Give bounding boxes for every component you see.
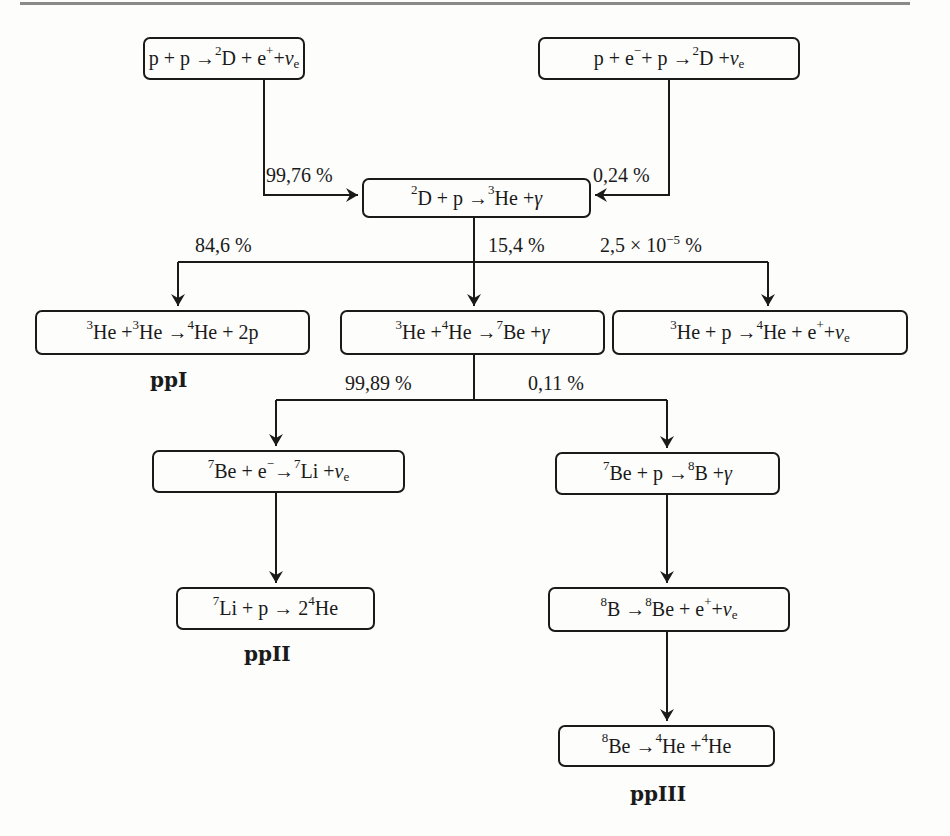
superscript: 8 [645, 594, 652, 610]
chain-label-ppIII: ppIII [630, 782, 686, 806]
neutrino-symbol: ν [730, 47, 739, 70]
reaction-be7-p: 7Be + p → 8B + γ [555, 452, 780, 495]
reaction-be8-decay: 8Be → 4He + 4He [558, 725, 775, 767]
superscript: 4 [308, 593, 315, 609]
text: + [273, 47, 284, 70]
reaction-be7-e: 7Be + e− → 7Li + νe [152, 450, 405, 493]
text: He + [93, 321, 133, 344]
branch-label-pp: 99,76 % [266, 164, 333, 187]
text: He + [402, 321, 442, 344]
superscript: 7 [213, 593, 220, 609]
text: He + 2p [194, 321, 259, 344]
text: He → [448, 321, 496, 344]
text: He + e [763, 321, 816, 344]
text: D + e [221, 47, 266, 70]
text: He + [662, 735, 702, 758]
text: D + p → [417, 187, 488, 210]
branch-label-pep: 0,24 % [593, 164, 650, 187]
superscript: 8 [600, 594, 607, 610]
text: He [708, 735, 731, 758]
text: Be + p → [609, 462, 688, 485]
reaction-hep: 3He + p → 4He + e+ + νe [612, 310, 908, 355]
superscript: 3 [396, 317, 403, 333]
reaction-b8-decay: 8B → 8Be + e+ + νe [548, 587, 790, 632]
superscript: 3 [133, 317, 140, 333]
gamma-symbol: γ [724, 462, 732, 485]
text: p + p → [149, 47, 215, 70]
reaction-he3-he3: 3He + 3He → 4He + 2p [35, 310, 310, 355]
branch-label-ppIII: 0,11 % [528, 372, 584, 395]
superscript: + [704, 594, 711, 610]
text: He → [139, 321, 187, 344]
reaction-li7-p: 7Li + p → 24He [176, 587, 375, 630]
text: + p → [641, 47, 692, 70]
superscript: 3 [488, 182, 495, 198]
text: He + [495, 187, 535, 210]
connector-arrows [0, 0, 950, 836]
superscript: + [266, 43, 273, 59]
text: Be → [608, 735, 655, 758]
text: B + [694, 462, 724, 485]
superscript: 3 [670, 317, 677, 333]
exponent: −5 [666, 232, 680, 247]
text: p + e [594, 47, 634, 70]
branch-label-he3he4: 15,4 % [488, 234, 545, 257]
chain-label-ppII: ppII [244, 642, 291, 666]
text: Be + [503, 321, 542, 344]
gamma-symbol: γ [534, 187, 542, 210]
subscript: e [294, 56, 300, 72]
superscript: 4 [702, 730, 709, 746]
subscript: e [739, 56, 745, 72]
branch-label-ppI: 84,6 % [195, 234, 252, 257]
neutrino-symbol: ν [285, 47, 294, 70]
reaction-pp: p + p → 2D + e+ + νe [143, 37, 305, 80]
text: Be + e [214, 460, 266, 483]
neutrino-symbol: ν [835, 321, 844, 344]
superscript: 7 [208, 456, 215, 472]
subscript: e [732, 607, 738, 623]
gamma-symbol: γ [542, 321, 550, 344]
superscript: 4 [187, 317, 194, 333]
superscript: 7 [603, 458, 610, 474]
text: Li + p → 2 [219, 597, 308, 620]
text: 2,5 × 10 [600, 234, 666, 256]
superscript: 2 [215, 43, 222, 59]
superscript: 7 [294, 456, 301, 472]
superscript: 8 [688, 458, 695, 474]
text: + [824, 321, 835, 344]
text: % [680, 234, 702, 256]
text: + [712, 598, 723, 621]
superscript: 2 [411, 182, 418, 198]
superscript: − [267, 456, 274, 472]
reaction-dp: 2D + p → 3He + γ [362, 178, 591, 218]
reaction-he3-he4: 3He + 4He → 7Be + γ [340, 310, 605, 355]
superscript: − [634, 43, 641, 59]
text: He [315, 597, 338, 620]
superscript: 4 [756, 317, 763, 333]
superscript: 4 [442, 317, 449, 333]
neutrino-symbol: ν [335, 460, 344, 483]
text: B → [607, 598, 645, 621]
superscript: 4 [655, 730, 662, 746]
branch-label-hep: 2,5 × 10−5 % [600, 234, 702, 257]
text: Be + e [652, 598, 704, 621]
superscript: + [816, 317, 823, 333]
text: D + [699, 47, 730, 70]
superscript: 7 [497, 317, 504, 333]
text: He + p → [677, 321, 757, 344]
subscript: e [343, 469, 349, 485]
superscript: 2 [692, 43, 699, 59]
superscript: 8 [602, 730, 609, 746]
reaction-pep: p + e− + p → 2D + νe [538, 37, 800, 80]
text: Li + [300, 460, 334, 483]
branch-label-ppII: 99,89 % [345, 372, 412, 395]
superscript: 3 [86, 317, 93, 333]
text: → [274, 460, 294, 483]
subscript: e [844, 330, 850, 346]
chain-label-ppI: ppI [150, 368, 187, 392]
neutrino-symbol: ν [723, 598, 732, 621]
